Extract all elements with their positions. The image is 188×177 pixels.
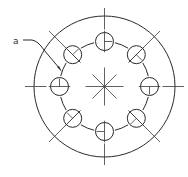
hole-tick <box>136 55 142 61</box>
bolt-circle-arc <box>61 63 66 76</box>
center-spoke <box>105 87 117 99</box>
bolt-circle-arc <box>115 43 128 48</box>
bolt-circle-arc <box>143 97 148 110</box>
bolt-circle-arc <box>81 43 94 48</box>
center-spoke <box>105 74 117 86</box>
hole-tick <box>131 118 137 124</box>
leader-arrow-icon <box>57 66 62 72</box>
label-leader: a <box>13 36 62 72</box>
bolt-hole <box>64 109 82 127</box>
bolt-circle-arc <box>81 125 94 130</box>
bolt-hole <box>49 78 71 96</box>
bolt-circle-diagram: a <box>0 0 188 177</box>
bolt-hole <box>96 121 114 143</box>
hole-tick <box>73 49 79 55</box>
bolt-circle-arc <box>143 63 148 76</box>
hole-tick <box>67 113 73 119</box>
bolt-hole <box>127 46 145 64</box>
bolt-circle-arc <box>115 125 128 130</box>
label-a: a <box>13 36 19 46</box>
bolt-hole <box>64 46 82 64</box>
bolt-hole <box>139 78 161 96</box>
center-spoke <box>92 74 104 86</box>
bolt-hole <box>127 109 145 127</box>
bolt-circle-arc <box>61 97 66 110</box>
center-spoke <box>92 87 104 99</box>
bolt-hole <box>96 31 114 53</box>
